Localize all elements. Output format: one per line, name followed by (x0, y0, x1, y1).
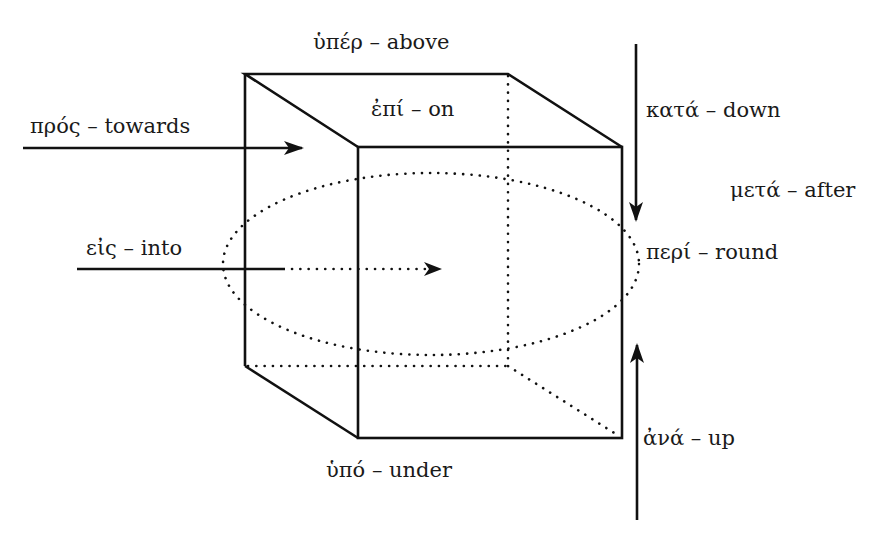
cube-front-face (358, 147, 622, 438)
label-ana-up: ἀνά – up (643, 426, 735, 450)
label-meta-after: μετά – after (730, 178, 856, 202)
label-peri-round: περί – round (646, 240, 778, 264)
into-arrow (77, 262, 442, 276)
bottom-left-depth-edge (245, 366, 358, 438)
cube-hidden-edges (248, 76, 619, 436)
label-epi-on: ἐπί – on (371, 97, 454, 121)
into-arrow-head (424, 262, 442, 276)
bottom-right-depth-edge (508, 366, 619, 436)
label-eis-into: εἰς – into (86, 236, 182, 260)
label-pros-towards: πρός – towards (30, 114, 190, 138)
cube (245, 74, 622, 438)
label-hypo-under: ὑπό – under (326, 458, 453, 482)
round-ellipse (223, 173, 639, 355)
label-kata-down: κατά – down (646, 98, 781, 122)
label-hyper-above: ὑπέρ – above (313, 30, 450, 54)
preposition-cube-diagram: ὑπέρ – above ἐπί – on πρός – towards κατ… (0, 0, 892, 533)
